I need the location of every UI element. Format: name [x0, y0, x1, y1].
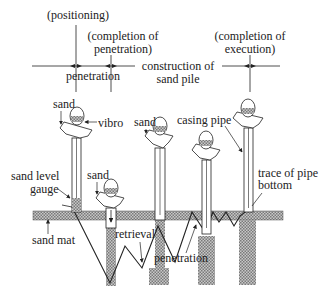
arrow-icon — [112, 64, 117, 68]
label-casing-pipe: casing pipe — [177, 113, 231, 127]
label-sand-mat: sand mat — [32, 233, 76, 247]
label-vibro: vibro — [98, 116, 123, 130]
phase-penetration-label: penetration — [66, 69, 120, 83]
stage-penetration-complete-label-1: (completion of — [88, 29, 159, 43]
stage-penetration-complete-label-2: penetration) — [94, 42, 152, 56]
pile-column-5 — [239, 220, 256, 285]
phase-construction-label-1: construction of — [142, 59, 214, 73]
label-sand-1: sand — [53, 97, 75, 111]
stage-execution-complete-label-1: (completion of — [215, 29, 286, 43]
arrow-icon — [105, 64, 110, 68]
sand-level-1 — [72, 198, 81, 212]
label-sand-2: sand — [87, 168, 109, 182]
label-sand-level-gauge-1: sand level — [11, 169, 60, 183]
stage-positioning-label: (positioning) — [47, 8, 109, 22]
pile-bulb-3 — [149, 268, 169, 285]
vibro-machine-5 — [233, 99, 263, 212]
phase-construction-label-2: sand pile — [157, 72, 200, 86]
sand-compaction-pile-diagram: (positioning) (completion of penetration… — [0, 0, 326, 299]
label-sand-level-gauge-2: gauge — [30, 182, 59, 196]
vibro-machine-2 — [96, 179, 124, 228]
arrow-icon — [77, 64, 82, 68]
label-trace-of-pipe-2: bottom — [258, 178, 293, 192]
label-sand-3: sand — [134, 115, 156, 129]
label-penetration: penetration — [154, 251, 208, 265]
arrow-icon — [70, 64, 75, 68]
gauge-leader — [62, 205, 72, 207]
arrow-icon — [244, 64, 249, 68]
vibro-machine-1 — [60, 107, 92, 212]
timeline: (positioning) (completion of penetration… — [32, 8, 285, 92]
arrow-icon — [251, 64, 256, 68]
vibro-machine-3 — [145, 117, 173, 220]
label-retrieval: retrieval — [115, 227, 156, 241]
stage-execution-complete-label-2: execution) — [225, 42, 276, 56]
